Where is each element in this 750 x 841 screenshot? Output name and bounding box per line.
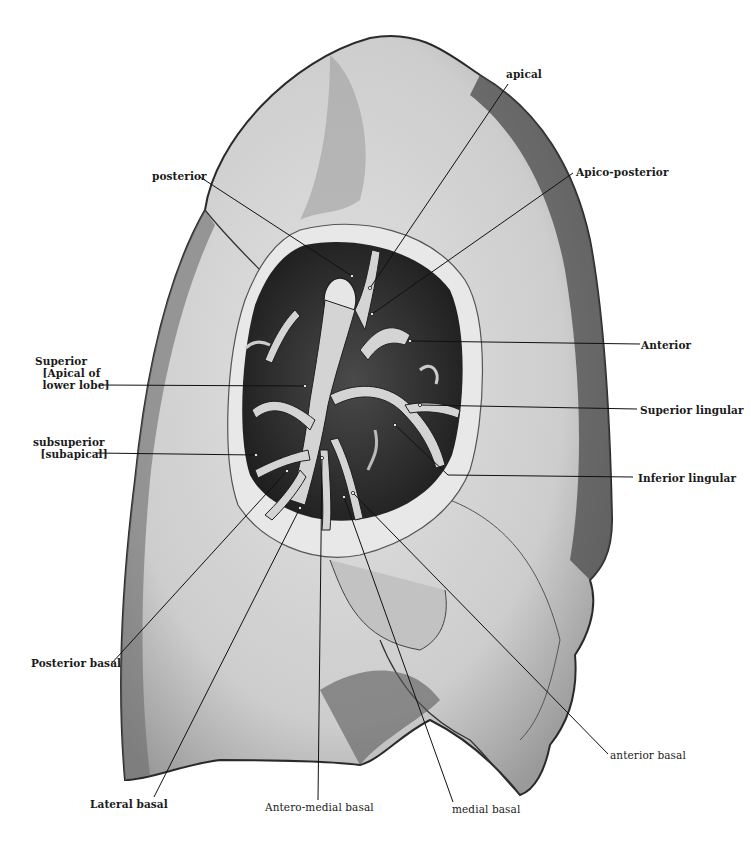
label-medial-basal: medial basal [452,803,520,815]
label-subsuperior: subsuperior [subapical] [33,436,108,460]
label-posterior: posterior [152,170,207,182]
label-lateral-basal: Lateral basal [90,798,168,810]
label-inferior-lingular: Inferior lingular [638,472,736,484]
label-antero-medial-basal: Antero-medial basal [265,801,374,813]
label-apical: apical [506,68,542,80]
label-superior-lingular: Superior lingular [640,404,744,416]
label-apico-posterior: Apico-posterior [576,166,669,178]
label-posterior-basal: Posterior basal [31,657,121,669]
label-anterior-basal: anterior basal [610,749,686,761]
label-superior: Superior [Apical of lower lobe] [35,355,110,391]
lung-illustration [0,0,750,841]
label-anterior: Anterior [641,339,691,351]
